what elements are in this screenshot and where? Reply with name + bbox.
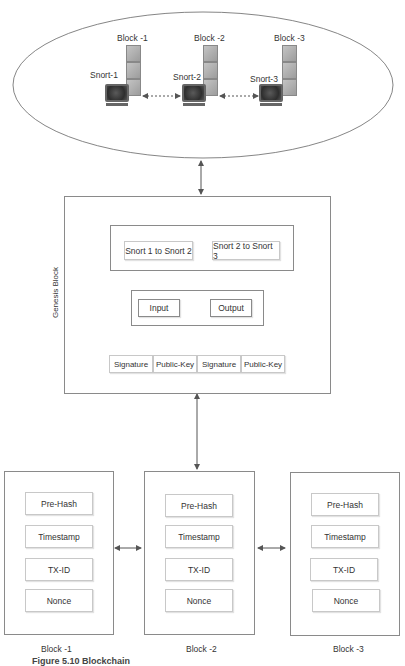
node-block-label: Block -1	[117, 33, 148, 43]
block-1: Pre-Hash Timestamp TX-ID Nonce	[4, 471, 114, 635]
nonce-field: Nonce	[25, 589, 93, 612]
node-snort-label: Snort-3	[250, 74, 278, 84]
link-snort2-snort3: Snort 2 to Snort 3	[212, 241, 280, 260]
link-snort1-snort2: Snort 1 to Snort 2	[124, 241, 193, 260]
monitor-stand-icon	[183, 103, 205, 106]
chain-cube-icon	[203, 62, 218, 79]
timestamp-field: Timestamp	[25, 525, 93, 548]
block-1-label: Block -1	[41, 644, 72, 654]
chain-cube-icon	[126, 45, 141, 62]
block-2: Pre-Hash Timestamp TX-ID Nonce	[144, 471, 255, 635]
timestamp-field: Timestamp	[165, 525, 233, 548]
pre-hash-field: Pre-Hash	[311, 493, 379, 516]
pre-hash-field: Pre-Hash	[165, 494, 233, 517]
computer-monitor-icon	[182, 84, 206, 102]
timestamp-field: Timestamp	[311, 525, 379, 548]
tx-id-field: TX-ID	[165, 558, 233, 581]
chain-cube-icon	[282, 62, 297, 79]
node-block-label: Block -2	[194, 33, 225, 43]
tx-id-field: TX-ID	[25, 558, 93, 581]
computer-monitor-icon	[105, 84, 129, 102]
block-3-label: Block -3	[333, 644, 364, 654]
pre-hash-field: Pre-Hash	[25, 492, 93, 515]
monitor-stand-icon	[260, 103, 282, 106]
node-block-label: Block -3	[274, 33, 305, 43]
signature-box: Signature	[197, 355, 241, 373]
signature-box: Signature	[109, 355, 153, 373]
computer-monitor-icon	[259, 84, 283, 102]
output-box: Output	[210, 299, 252, 317]
chain-cube-icon	[282, 79, 297, 96]
node-snort-label: Snort-2	[173, 72, 201, 82]
monitor-stand-icon	[106, 103, 128, 106]
tx-id-field: TX-ID	[310, 558, 378, 581]
block-2-label: Block -2	[186, 644, 217, 654]
figure-caption: Figure 5.10 Blockchain	[32, 656, 130, 666]
nonce-field: Nonce	[165, 589, 233, 612]
input-box: Input	[138, 299, 180, 317]
public-key-box: Public-Key	[241, 355, 285, 373]
public-key-box: Public-Key	[153, 355, 197, 373]
block-3: Pre-Hash Timestamp TX-ID Nonce	[290, 472, 400, 636]
nonce-field: Nonce	[312, 589, 380, 612]
chain-cube-icon	[203, 45, 218, 62]
chain-cube-icon	[282, 45, 297, 62]
chain-cube-icon	[126, 62, 141, 79]
node-snort-label: Snort-1	[90, 70, 118, 80]
genesis-block-label: Genesis Block	[51, 258, 60, 328]
